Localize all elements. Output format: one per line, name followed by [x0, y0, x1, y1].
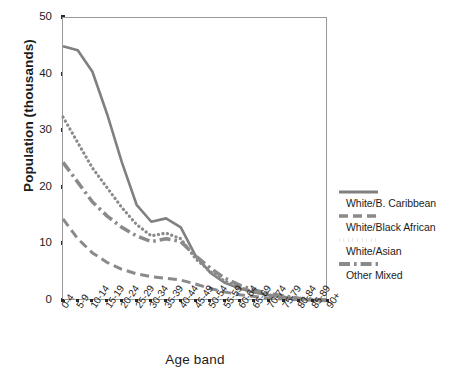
y-tick-label: 10	[18, 236, 52, 248]
series-line	[63, 117, 328, 300]
legend-label: White/Black African	[346, 221, 448, 233]
series-line	[63, 46, 328, 300]
legend-swatch-dotted	[338, 234, 382, 246]
legend-item[interactable]: White/Asian	[336, 234, 448, 257]
legend-label: White/B. Caribbean	[346, 197, 448, 209]
y-tick-label: 20	[18, 180, 52, 192]
legend-item[interactable]: White/Black African	[336, 210, 448, 233]
plot-area	[62, 17, 327, 300]
legend-swatch-dashed	[338, 210, 382, 222]
legend-item[interactable]: Other Mixed	[336, 258, 448, 281]
legend-label: Other Mixed	[346, 269, 448, 281]
legend-item[interactable]: White/B. Caribbean	[336, 186, 448, 209]
legend-swatch-dashdot	[338, 258, 382, 270]
legend-label: White/Asian	[346, 245, 448, 257]
y-tick-label: 0	[18, 293, 52, 305]
y-tick-label: 40	[18, 67, 52, 79]
y-tick-label: 50	[18, 10, 52, 22]
series-lines	[63, 18, 328, 301]
chart-figure: Population (thousands) 01020304050 0-45-…	[0, 0, 450, 388]
chart-legend: White/B. CaribbeanWhite/Black AfricanWhi…	[336, 186, 448, 282]
legend-swatch-solid	[338, 186, 382, 198]
x-axis-title: Age band	[62, 352, 328, 367]
y-tick-label: 30	[18, 123, 52, 135]
